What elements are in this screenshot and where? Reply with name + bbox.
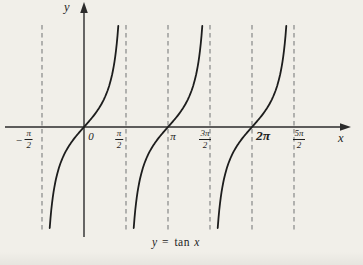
plot-canvas [0,0,363,265]
x-axis-label: x [338,132,344,145]
x-tick-label-pi: π [170,131,176,142]
minus-sign: − [16,134,23,146]
x-tick-label-zero: 0 [88,131,94,142]
caption-equals: = [162,236,169,248]
tangent-figure: y x −π20π2π3π22π5π2 y = tan x [0,0,363,265]
x-tick-label-three-half-pi: 3π2 [199,129,211,150]
x-tick-label-half-pi: π2 [115,129,123,150]
figure-caption: y = tan x [152,236,200,248]
x-tick-label-two-pi: 2π [256,129,270,143]
x-tick-label-five-half-pi: 5π2 [293,129,305,150]
y-axis-arrowhead [80,2,88,13]
caption-arg: x [194,236,200,248]
caption-lhs: y [152,236,158,248]
caption-function: tan [174,236,190,248]
x-axis-arrowhead [340,123,351,131]
x-tick-label-neg-half-pi: −π2 [16,129,33,150]
y-axis-label: y [64,1,70,14]
